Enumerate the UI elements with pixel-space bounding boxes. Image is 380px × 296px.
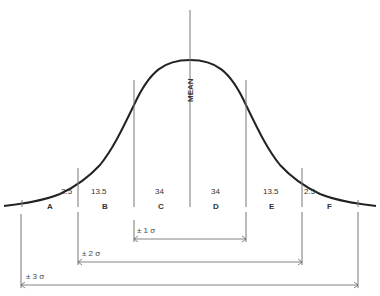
region-b-letter: B xyxy=(102,202,108,211)
bell-curve-diagram: MEAN 2.5 13.5 34 34 13.5 2.5 A B C D E F… xyxy=(0,0,380,296)
sigma-3-label: ± 3 σ xyxy=(26,272,44,281)
plus-minus-1-sigma-range: ± 1 σ xyxy=(134,212,246,242)
region-c-percent: 34 xyxy=(155,187,164,196)
region-e-letter: E xyxy=(269,202,275,211)
region-c-letter: C xyxy=(158,202,164,211)
plus-minus-3-sigma-range: ± 3 σ xyxy=(21,212,358,288)
sigma-2-label: ± 2 σ xyxy=(82,249,100,258)
region-b-percent: 13.5 xyxy=(91,187,107,196)
region-a-percent: 2.5 xyxy=(61,187,73,196)
sigma-1-label: ± 1 σ xyxy=(137,226,155,235)
region-d-letter: D xyxy=(213,202,219,211)
region-d-percent: 34 xyxy=(211,187,220,196)
plus-minus-2-sigma-range: ± 2 σ xyxy=(78,212,302,265)
mean-label: MEAN xyxy=(186,78,195,102)
region-f-percent: 2.5 xyxy=(304,187,316,196)
region-a-letter: A xyxy=(47,202,53,211)
region-e-percent: 13.5 xyxy=(263,187,279,196)
region-f-letter: F xyxy=(327,202,332,211)
